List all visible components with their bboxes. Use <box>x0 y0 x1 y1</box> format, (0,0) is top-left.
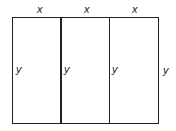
side-label-2: y <box>64 64 70 75</box>
top-label-1: x <box>37 4 43 15</box>
top-label-2: x <box>84 4 90 15</box>
side-label-4: y <box>163 65 169 76</box>
side-label-1: y <box>16 64 22 75</box>
top-label-3: x <box>132 4 138 15</box>
side-label-3: y <box>112 64 118 75</box>
